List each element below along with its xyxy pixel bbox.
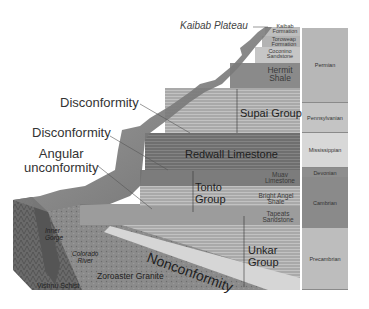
kaibab-plateau-label: Kaibab Plateau — [180, 21, 248, 31]
period-label: Permian — [315, 62, 335, 68]
grand-canyon-cross-section: Permian Pennsylvanian Mississippian Devo… — [0, 0, 369, 309]
period-label: Cambrian — [313, 200, 337, 206]
unkar-group-label: UnkarGroup — [248, 245, 279, 268]
angular-unconformity-label: Angularunconformity — [24, 147, 98, 174]
kaibab-label: KaibabFormation — [270, 24, 300, 34]
period-mississippian: Mississippian — [302, 133, 348, 168]
disconformity-upper-label: Disconformity — [60, 96, 139, 109]
period-precambrian: Precambrian — [302, 228, 348, 290]
period-cambrian: Cambrian — [302, 178, 348, 228]
disconformity-lower-label: Disconformity — [32, 126, 111, 139]
period-label: Precambrian — [309, 256, 340, 262]
bright-angel-label: Bright AngelShale — [254, 193, 298, 205]
tonto-group-label: TontoGroup — [195, 182, 226, 205]
tapeats-label: TapeatsSandstone — [258, 211, 298, 223]
redwall-limestone-label: Redwall Limestone — [185, 149, 278, 160]
vishnu-schist-label: Vishnu Schist — [37, 282, 79, 289]
muav-label: MuavLimestone — [262, 172, 298, 184]
period-label: Mississippian — [309, 147, 342, 153]
inner-gorge-label: InnerGorge — [45, 228, 63, 242]
zoroaster-granite-label: Zoroaster Granite — [97, 272, 164, 281]
period-label: Pennsylvanian — [307, 115, 343, 121]
period-permian: Permian — [302, 28, 348, 103]
period-pennsylvanian: Pennsylvanian — [302, 103, 348, 133]
period-devonian: Devonian — [302, 168, 348, 178]
colorado-river-label: ColoradoRiver — [72, 251, 98, 265]
supai-group-label: Supai Group — [240, 108, 302, 119]
toroweap-label: ToroweapFormation — [268, 37, 300, 47]
coconino-label: CoconinoSandstone — [262, 49, 298, 59]
hermit-label: HermitShale — [262, 66, 298, 82]
period-label: Devonian — [313, 170, 336, 176]
